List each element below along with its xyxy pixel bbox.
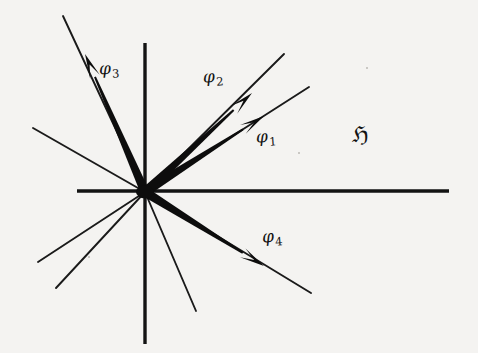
ray-lower-left-upper xyxy=(38,192,145,262)
vector-group xyxy=(85,54,264,266)
vector-label-phi3-symbol: φ xyxy=(98,58,111,79)
vector-label-phi2: φ2 xyxy=(202,67,224,89)
vector-phi3-shaft xyxy=(94,77,149,194)
vector-label-phi2-symbol: φ xyxy=(202,66,215,87)
ray-lower-left-lower xyxy=(56,192,145,288)
vector-label-phi2-subscript: 2 xyxy=(215,74,224,89)
vector-label-phi1: φ1 xyxy=(255,127,277,149)
speck-upper-right xyxy=(366,67,368,69)
vector-label-phi1-symbol: φ xyxy=(255,126,268,147)
axis-group xyxy=(77,43,449,344)
vector-label-phi4-symbol: φ xyxy=(261,226,275,247)
hilbert-space-label: ℌ xyxy=(352,124,369,146)
vector-label-phi3-subscript: 3 xyxy=(111,66,120,80)
diagram-canvas xyxy=(0,0,478,353)
vector-phi2-shaft xyxy=(142,109,234,195)
vector-diagram-figure: φ1 φ2 φ3 φ4 ℌ xyxy=(0,0,478,353)
vector-label-phi4: φ4 xyxy=(261,227,283,249)
speck-lower-right xyxy=(298,152,300,154)
vector-label-phi1-subscript: 1 xyxy=(268,134,277,149)
vector-label-phi4-subscript: 4 xyxy=(274,234,284,249)
speck-mid-left xyxy=(88,256,90,258)
origin-point xyxy=(136,186,154,199)
vector-label-phi3: φ3 xyxy=(98,59,119,80)
